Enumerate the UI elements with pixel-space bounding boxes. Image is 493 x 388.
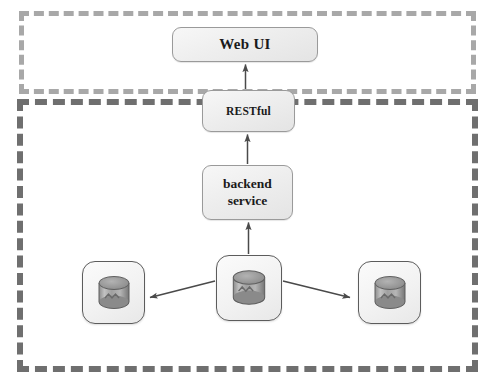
node-database-right[interactable] [358,261,421,324]
node-database-center[interactable] [216,255,282,321]
database-cylinder-icon [92,271,136,315]
architecture-diagram: Web UI RESTful backend service [0,0,493,388]
edge-db-center-to-db-right [283,281,350,298]
database-cylinder-icon [368,271,412,315]
connector-layer [0,0,493,388]
node-restful[interactable]: RESTful [202,90,295,132]
database-cylinder-icon [226,265,272,311]
node-database-left[interactable] [82,261,145,324]
edge-db-center-to-db-left [150,281,215,298]
node-restful-label: RESTful [226,105,271,117]
